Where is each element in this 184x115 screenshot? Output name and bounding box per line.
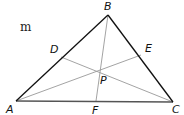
label-D: D	[50, 43, 58, 56]
triangle-diagram: m A B C D E F P	[0, 0, 184, 115]
side-AC	[16, 101, 173, 102]
label-B: B	[104, 0, 112, 13]
label-C: C	[172, 103, 180, 115]
label-E: E	[145, 42, 152, 55]
label-F: F	[92, 104, 99, 115]
cropped-text-fragment: m	[20, 20, 32, 34]
label-P: P	[100, 74, 107, 87]
cevian-AE	[16, 55, 141, 101]
cevian-BF	[96, 15, 108, 101]
label-A: A	[5, 103, 14, 115]
